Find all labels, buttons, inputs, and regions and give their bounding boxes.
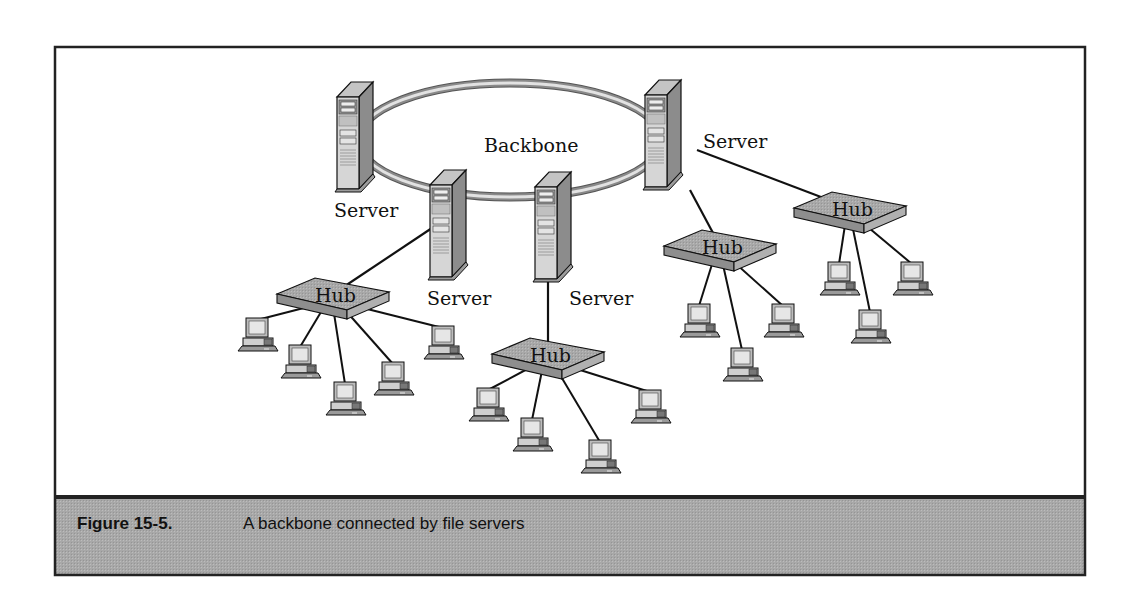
workstation xyxy=(326,382,366,415)
workstation xyxy=(680,304,720,337)
hub-label: Hub xyxy=(315,284,356,306)
server-2 xyxy=(428,170,468,280)
computer-icon xyxy=(893,262,933,295)
server-tower-icon xyxy=(335,82,375,192)
computer-icon xyxy=(281,345,321,378)
workstation xyxy=(424,326,464,359)
workstation xyxy=(851,310,891,343)
computer-icon xyxy=(469,388,509,421)
computer-icon xyxy=(851,310,891,343)
computer-icon xyxy=(238,318,278,351)
figure-caption: Figure 15-5. A backbone connected by fil… xyxy=(77,514,525,533)
computer-icon xyxy=(326,382,366,415)
hub-label: Hub xyxy=(530,344,571,366)
server-tower-icon xyxy=(428,170,468,280)
workstation xyxy=(238,318,278,351)
workstation xyxy=(469,388,509,421)
workstation xyxy=(631,390,671,423)
hub-label: Hub xyxy=(832,198,873,220)
workstation xyxy=(581,440,621,473)
server-label: Server xyxy=(427,287,492,309)
server-label: Server xyxy=(569,287,634,309)
network-diagram: HubHubHubHub Backbone ServerServerServer… xyxy=(0,0,1139,598)
server-tower-icon xyxy=(643,80,683,190)
computer-icon xyxy=(820,262,860,295)
backbone-label: Backbone xyxy=(484,134,579,156)
caption-band xyxy=(55,497,1085,575)
workstation xyxy=(820,262,860,295)
workstation xyxy=(723,348,763,381)
computer-icon xyxy=(581,440,621,473)
hub-label: Hub xyxy=(702,236,743,258)
figure-frame xyxy=(55,47,1085,575)
computer-icon xyxy=(723,348,763,381)
workstation xyxy=(513,418,553,451)
hub-d: Hub xyxy=(794,192,906,233)
server-label: Server xyxy=(703,130,768,152)
caption-number: Figure 15-5. xyxy=(77,514,172,533)
hub-c: Hub xyxy=(664,230,776,271)
caption-text: A backbone connected by file servers xyxy=(243,514,525,533)
workstation xyxy=(281,345,321,378)
server-1 xyxy=(335,82,375,192)
workstation xyxy=(764,304,804,337)
server-tower-icon xyxy=(533,172,573,282)
computer-icon xyxy=(513,418,553,451)
workstation xyxy=(893,262,933,295)
server-label: Server xyxy=(334,199,399,221)
computer-icon xyxy=(374,362,414,395)
network-devices: HubHubHubHub xyxy=(238,80,933,473)
computer-icon xyxy=(680,304,720,337)
computer-icon xyxy=(631,390,671,423)
workstation xyxy=(374,362,414,395)
server-4 xyxy=(643,80,683,190)
computer-icon xyxy=(764,304,804,337)
hub-a: Hub xyxy=(277,278,389,319)
computer-icon xyxy=(424,326,464,359)
server-3 xyxy=(533,172,573,282)
